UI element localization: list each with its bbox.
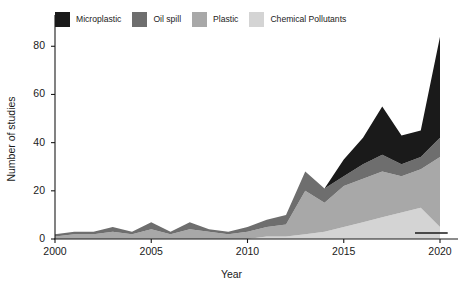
y-tick-label: 0 bbox=[19, 232, 45, 244]
x-axis-label: Year bbox=[0, 268, 463, 280]
x-axis-ticks bbox=[55, 239, 440, 243]
area-series-group bbox=[55, 37, 440, 239]
x-tick-label: 2020 bbox=[420, 245, 460, 257]
y-tick-label: 80 bbox=[19, 39, 45, 51]
plot-area bbox=[0, 0, 463, 286]
stacked-area-chart: Microplastic Oil spill Plastic Chemical … bbox=[0, 0, 463, 286]
x-tick-label: 2015 bbox=[324, 245, 364, 257]
x-tick-label: 2005 bbox=[131, 245, 171, 257]
y-axis-label: Number of studies bbox=[5, 79, 17, 199]
x-tick-label: 2010 bbox=[228, 245, 268, 257]
x-tick-label: 2000 bbox=[35, 245, 75, 257]
y-tick-label: 60 bbox=[19, 87, 45, 99]
y-tick-label: 20 bbox=[19, 184, 45, 196]
y-axis-ticks bbox=[51, 46, 55, 239]
y-tick-label: 40 bbox=[19, 136, 45, 148]
